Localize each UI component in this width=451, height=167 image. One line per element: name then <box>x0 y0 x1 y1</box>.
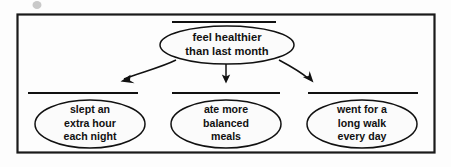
effect-node-line-2: than last month <box>185 45 268 57</box>
diagram-container: feel healthier than last month <box>0 0 451 167</box>
cause-node-3-line-1: went for a <box>336 103 387 115</box>
arrow-to-walk-line <box>279 60 309 79</box>
arrow-to-slept-line <box>124 60 176 79</box>
arrow-to-ate-balanced-meals <box>222 64 230 84</box>
cause-node-2-line-1: ate more <box>204 103 248 115</box>
cause-node-2-line-3: meals <box>211 130 241 142</box>
effect-node-line-1: feel healthier <box>192 31 262 43</box>
cause-and-effect-diagram: feel healthier than last month <box>0 0 451 167</box>
arrow-to-walk-head <box>303 71 314 83</box>
cause-node-3-line-3: every day <box>338 130 387 142</box>
arrow-to-slept-extra-hour <box>121 60 177 83</box>
cause-node-1-line-3: each night <box>64 130 117 142</box>
node-feel-healthier[interactable]: feel healthier than last month <box>160 22 294 64</box>
node-slept-extra-hour[interactable]: slept an extra hour each night <box>28 93 145 148</box>
node-went-long-walk[interactable]: went for a long walk every day <box>307 93 418 148</box>
arrow-to-went-long-walk <box>279 60 314 83</box>
cause-node-1-line-1: slept an <box>70 103 110 115</box>
cause-node-3-line-2: long walk <box>338 117 386 129</box>
cause-node-2-line-2: balanced <box>203 117 249 129</box>
cause-node-1-line-2: extra hour <box>64 117 116 129</box>
scan-artifact-speck <box>33 1 42 9</box>
node-ate-balanced-meals[interactable]: ate more balanced meals <box>171 93 281 148</box>
